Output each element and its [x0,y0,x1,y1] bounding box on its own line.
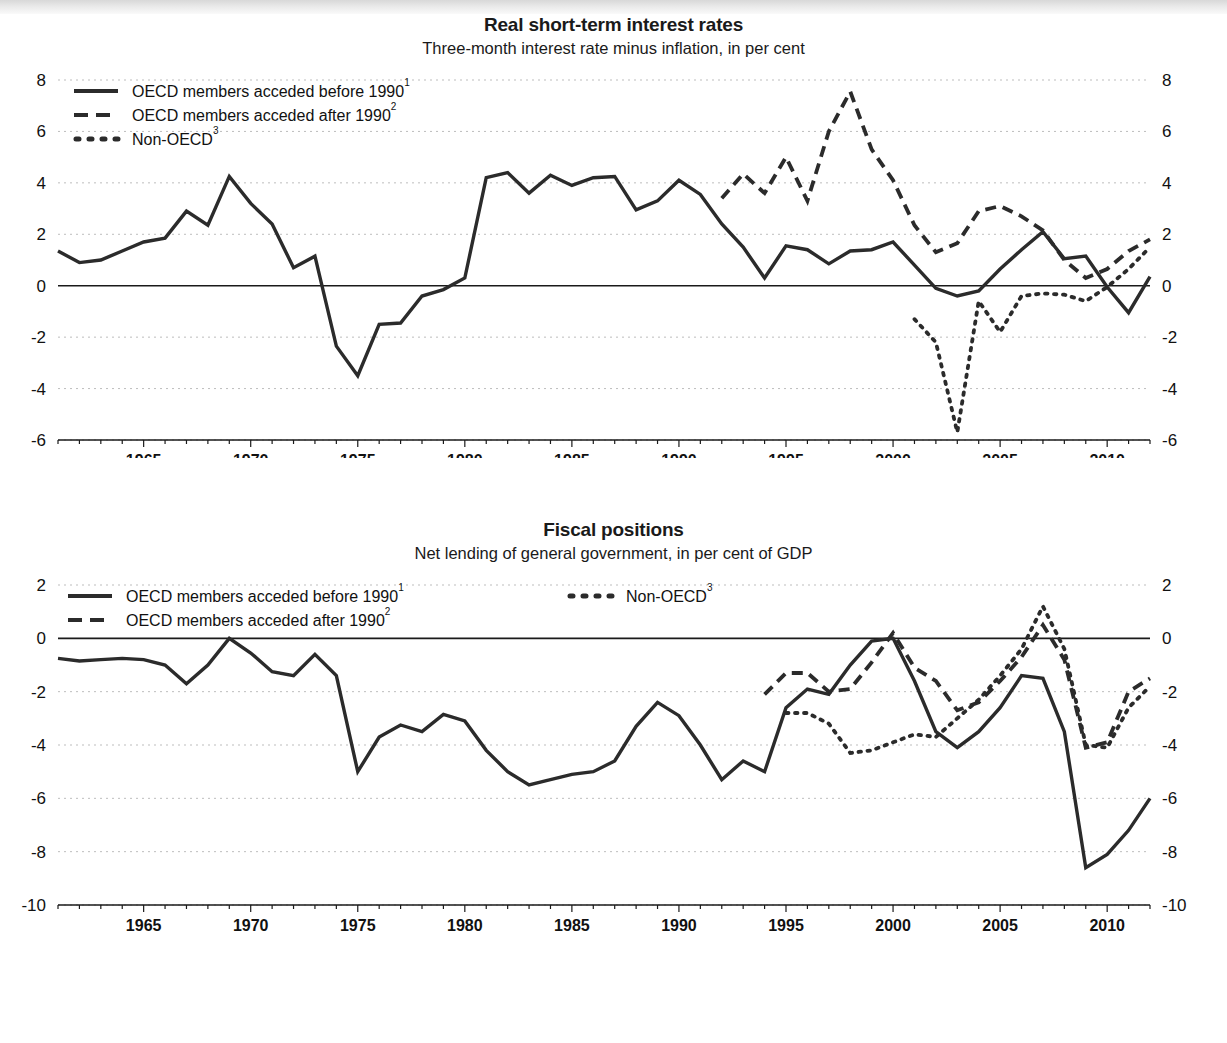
x-axis-tick-label: 2010 [1089,917,1125,934]
y-axis-tick-label-right: 4 [1162,174,1171,193]
y-axis-tick-label-right: -4 [1162,736,1177,755]
legend-item: OECD members acceded after 19902 [68,606,391,630]
legend-item: Non-OECD3 [76,125,219,149]
y-axis-tick-label-right: 2 [1162,225,1171,244]
y-axis-tick-label-right: 2 [1162,576,1171,595]
chart-1-title: Real short-term interest rates [0,14,1227,36]
y-axis-tick-label-left: 4 [37,174,46,193]
x-axis-tick-label: 1990 [661,917,697,934]
y-axis-tick-label-left: 8 [37,71,46,90]
x-axis-tick-label: 2005 [982,917,1018,934]
chart-2-subtitle: Net lending of general government, in pe… [0,544,1227,563]
page-top-band [0,0,1227,14]
chart-legend: OECD members acceded before 19901OECD me… [68,582,713,630]
legend-footnote-marker: 1 [404,77,410,88]
x-axis-ticks [58,905,1150,912]
x-axis-tick-label: 1985 [554,452,590,458]
y-axis-tick-label-right: -6 [1162,431,1177,450]
chart-1-subtitle: Three-month interest rate minus inflatio… [0,39,1227,58]
y-axis-tick-label-left: 0 [37,629,46,648]
series-line-dashed [722,92,1150,278]
y-axis-tick-label-right: -2 [1162,683,1177,702]
legend-label: OECD members acceded after 19902 [126,606,391,630]
y-axis-tick-label-left: -10 [21,896,46,915]
x-axis-tick-label: 1985 [554,917,590,934]
legend-label: Non-OECD3 [132,125,219,149]
x-axis-tick-label: 1970 [233,917,269,934]
y-axis-tick-label-left: -4 [31,380,46,399]
legend-footnote-marker: 3 [213,125,219,136]
x-axis-tick-label: 2000 [875,917,911,934]
y-axis-tick-label-right: -8 [1162,843,1177,862]
y-axis-tick-label-right: 0 [1162,277,1171,296]
y-axis-tick-label-left: -6 [31,789,46,808]
y-axis-tick-label-left: -8 [31,843,46,862]
y-axis-tick-label-left: -6 [31,431,46,450]
y-axis-tick-label-right: -4 [1162,380,1177,399]
chart-panel-real-interest-rates: Real short-term interest rates Three-mon… [0,14,1227,519]
y-axis-tick-label-right: 0 [1162,629,1171,648]
plot-1-svg: -6-6-4-4-2-20022446688196519701975198019… [0,58,1227,458]
legend-footnote-marker: 3 [707,582,713,593]
legend-footnote-marker: 2 [385,606,391,617]
chart-panel-fiscal-positions: Fiscal positions Net lending of general … [0,519,1227,1043]
y-axis-tick-label-left: -2 [31,328,46,347]
y-axis-tick-label-left: 0 [37,277,46,296]
x-axis-tick-label: 1975 [340,917,376,934]
y-axis-tick-label-left: 2 [37,225,46,244]
series-line-solid [58,638,1150,867]
chart-2-title: Fiscal positions [0,519,1227,541]
x-axis-ticks [58,440,1150,447]
y-axis-tick-label-right: 6 [1162,122,1171,141]
series-line-dotted [914,247,1150,432]
x-axis-tick-label: 1995 [768,452,804,458]
x-axis-tick-label: 2005 [982,452,1018,458]
x-axis-tick-label: 1980 [447,452,483,458]
legend-label: OECD members acceded after 19902 [132,101,397,125]
x-axis-tick-label: 1970 [233,452,269,458]
chart-1-plot-area: -6-6-4-4-2-20022446688196519701975198019… [0,58,1227,458]
y-axis-tick-label-left: -2 [31,683,46,702]
legend-footnote-marker: 1 [398,582,404,593]
legend-footnote-marker: 2 [391,101,397,112]
x-axis-tick-label: 1975 [340,452,376,458]
x-axis-tick-label: 1965 [126,452,162,458]
legend-label: Non-OECD3 [626,582,713,606]
x-axis-tick-label: 1990 [661,452,697,458]
y-axis-tick-label-right: 8 [1162,71,1171,90]
plot-2-svg: -10-10-8-8-6-6-4-4-2-2002219651970197519… [0,563,1227,963]
x-axis-tick-label: 2010 [1089,452,1125,458]
legend-item: OECD members acceded after 19902 [74,101,397,125]
y-axis-tick-label-left: -4 [31,736,46,755]
y-axis-tick-label-left: 6 [37,122,46,141]
y-axis-tick-label-right: -2 [1162,328,1177,347]
x-axis-tick-label: 1965 [126,917,162,934]
series-line-dashed [765,625,1150,748]
x-axis-tick-label: 1995 [768,917,804,934]
chart-legend: OECD members acceded before 19901OECD me… [74,77,410,149]
y-axis-tick-label-right: -6 [1162,789,1177,808]
y-axis-tick-label-right: -10 [1162,896,1187,915]
y-gridlines [58,80,1150,440]
x-axis-tick-label: 1980 [447,917,483,934]
y-gridlines [58,585,1150,905]
chart-2-plot-area: -10-10-8-8-6-6-4-4-2-2002219651970197519… [0,563,1227,963]
x-axis-tick-label: 2000 [875,452,911,458]
y-axis-tick-label-left: 2 [37,576,46,595]
series-line-solid [58,173,1150,376]
